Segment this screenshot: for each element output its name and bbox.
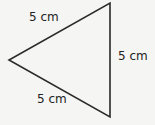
side-label-lower-left: 5 cm [37, 93, 67, 105]
side-label-right: 5 cm [118, 50, 148, 62]
side-label-upper-left: 5 cm [29, 11, 59, 23]
